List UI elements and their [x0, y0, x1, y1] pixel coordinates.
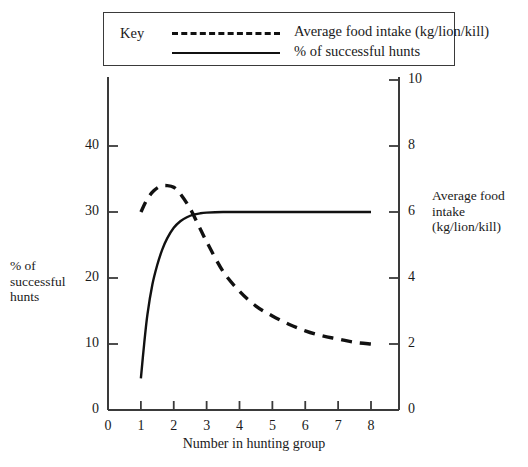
y-axis-right-title-line1: Average food — [432, 188, 524, 204]
y-left-tick-label-40: 40 — [75, 137, 99, 153]
y-axis-left-title-line3: hunts — [10, 289, 88, 305]
y-axis-left-title-line2: successful — [10, 274, 88, 290]
y-right-tick-label-6: 6 — [408, 203, 432, 219]
y-axis-right-title: Average food intake (kg/lion/kill) — [432, 188, 524, 235]
x-tick-label-1: 1 — [127, 418, 155, 434]
axes — [108, 77, 399, 410]
x-tick-label-8: 8 — [357, 418, 385, 434]
y-left-tick-label-10: 10 — [75, 335, 99, 351]
chart-figure: Key Average food intake (kg/lion/kill) %… — [0, 0, 528, 467]
x-axis-title: Number in hunting group — [108, 436, 400, 452]
y-right-tick-label-8: 8 — [408, 137, 432, 153]
y-right-tick-label-4: 4 — [408, 269, 432, 285]
x-tick-label-6: 6 — [291, 418, 319, 434]
y-axis-left-title: % of successful hunts — [10, 258, 88, 305]
x-tick-label-3: 3 — [193, 418, 221, 434]
x-tick-label-2: 2 — [160, 418, 188, 434]
series-curve-successful-hunts — [141, 186, 371, 344]
x-tick-label-5: 5 — [258, 418, 286, 434]
y-axis-left-title-line1: % of — [10, 258, 88, 274]
x-tick-label-0: 0 — [94, 418, 122, 434]
x-tick-label-7: 7 — [324, 418, 352, 434]
x-tick-label-4: 4 — [226, 418, 254, 434]
y-left-tick-label-30: 30 — [75, 203, 99, 219]
y-right-tick-label-2: 2 — [408, 335, 432, 351]
y-right-tick-label-10: 10 — [408, 71, 432, 87]
y-right-tick-label-0: 0 — [408, 401, 432, 417]
series-curve-food-intake — [141, 212, 371, 378]
data-curves — [141, 186, 371, 379]
y-axis-right-title-line3: (kg/lion/kill) — [432, 219, 524, 235]
y-axis-right-title-line2: intake — [432, 204, 524, 220]
y-left-tick-label-0: 0 — [75, 401, 99, 417]
